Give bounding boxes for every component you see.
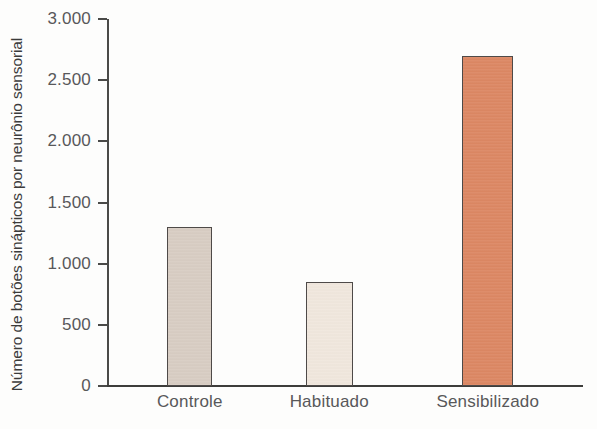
- bar-chart-figure: Número de botões sinápticos por neurônio…: [0, 0, 597, 429]
- bar-controle: [167, 227, 212, 386]
- bar-sensibilizado: [462, 56, 513, 386]
- y-axis-tick-mark: [98, 385, 107, 387]
- y-axis-tick-label: 1.000: [9, 254, 91, 274]
- y-axis-tick-label: 500: [9, 315, 91, 335]
- x-axis-tick-labels: ControleHabituadoSensibilizado: [107, 392, 583, 422]
- y-axis-tick-label: 3.000: [9, 9, 91, 29]
- y-axis-tick-mark: [98, 140, 107, 142]
- y-axis-tick-label: 2.500: [9, 70, 91, 90]
- y-axis-tick-mark: [98, 324, 107, 326]
- bar-texture: [168, 228, 211, 385]
- bars-layer: [107, 19, 583, 386]
- x-axis-tick-label: Sensibilizado: [436, 392, 539, 412]
- y-axis-tick-mark: [98, 202, 107, 204]
- y-axis-tick-label: 2.000: [9, 131, 91, 151]
- y-axis-tick-label: 0: [9, 376, 91, 396]
- y-axis-tick-label: 1.500: [9, 193, 91, 213]
- bar-texture: [307, 283, 352, 385]
- x-axis-tick-label: Controle: [157, 392, 223, 412]
- x-axis-tick-label: Habituado: [290, 392, 369, 412]
- bar-habituado: [306, 282, 353, 386]
- bar-texture: [463, 57, 512, 385]
- y-axis-tick-mark: [98, 79, 107, 81]
- y-axis-tick-mark: [98, 18, 107, 20]
- y-axis-tick-mark: [98, 263, 107, 265]
- y-axis-tick-labels: 05001.0001.5002.0002.5003.000: [0, 0, 91, 429]
